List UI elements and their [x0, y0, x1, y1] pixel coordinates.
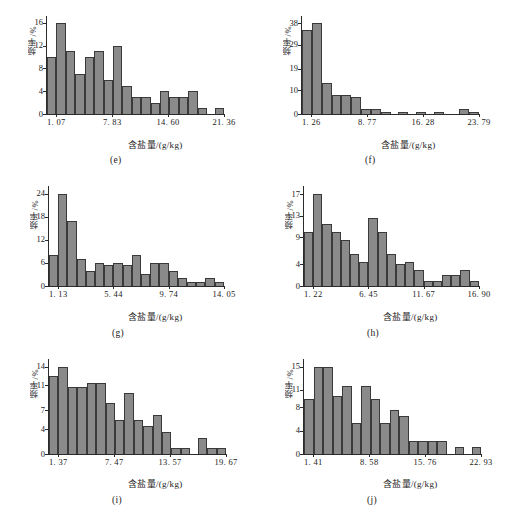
histogram-bar	[66, 51, 75, 114]
histogram-panel-g: 频率/%061218241. 135. 449. 7414. 05含盐量/(g/…	[0, 170, 253, 345]
histogram-bar	[350, 254, 359, 286]
histogram-bar	[341, 240, 350, 286]
x-tick-label: 8. 77	[358, 118, 377, 127]
histogram-bar	[150, 263, 159, 286]
y-tick-label: 18	[37, 213, 49, 222]
x-tick-label: 23. 79	[467, 118, 490, 127]
histogram-bar	[215, 282, 224, 286]
histogram-bar	[469, 112, 479, 114]
histogram-bar	[58, 367, 67, 455]
histogram-bar	[77, 259, 86, 286]
y-tick-label: 8	[39, 64, 46, 73]
histogram-bar	[352, 423, 362, 454]
histogram-bar	[49, 376, 58, 454]
histogram-panel-h: 频率/%04913171. 226. 4511. 6716. 90含盐量/(g/…	[253, 170, 505, 345]
histogram-bar	[455, 447, 465, 454]
x-axis-line	[46, 114, 224, 115]
histogram-bar	[460, 270, 469, 286]
y-tick-label: 4	[41, 425, 48, 434]
histogram-bar	[302, 30, 312, 114]
y-tick-label: 17	[292, 190, 304, 199]
x-axis-label: 含盐量/(g/kg)	[128, 477, 183, 490]
y-tick-label: 11	[292, 386, 303, 395]
histogram-bar	[390, 410, 400, 454]
histogram-bar	[409, 441, 419, 454]
bar-series	[47, 16, 224, 114]
histogram-bar	[122, 86, 131, 114]
histogram-bar	[171, 448, 180, 454]
y-tick-label: 10	[290, 86, 302, 95]
histogram-bar	[106, 403, 115, 454]
plot-area: 04811151. 418. 5815. 7622. 93	[303, 359, 481, 454]
histogram-bar	[333, 396, 343, 454]
histogram-bar	[381, 112, 391, 114]
x-axis-line	[48, 286, 224, 287]
y-tick-label: 8	[296, 403, 303, 412]
histogram-bar	[94, 51, 103, 114]
plot-area: 04812161. 077. 8314. 6021. 36	[46, 16, 224, 114]
y-tick-label: 38	[290, 19, 302, 28]
x-axis-label: 含盐量/(g/kg)	[383, 310, 438, 323]
x-tick-label: 13. 57	[159, 458, 182, 467]
bar-series	[49, 186, 224, 286]
histogram-bar	[437, 441, 447, 454]
x-axis-label: 含盐量/(g/kg)	[128, 310, 183, 323]
histogram-bar	[181, 448, 190, 454]
histogram-bar	[58, 194, 67, 286]
x-tick-label: 22. 93	[469, 458, 492, 467]
y-tick-label: 29	[290, 40, 302, 49]
histogram-panel-i: 频率/%04711141. 377. 4713. 5719. 67含盐量/(g/…	[0, 345, 253, 511]
histogram-bar	[160, 91, 169, 114]
y-tick-label: 15	[292, 362, 304, 371]
histogram-bar	[143, 426, 152, 454]
x-tick-label: 14. 05	[212, 290, 235, 299]
y-tick-label: 0	[294, 110, 301, 119]
histogram-panel-j: 频率/%04811151. 418. 5815. 7622. 93含盐量/(g/…	[253, 345, 505, 511]
x-axis-line	[303, 286, 479, 287]
x-tick-label: 15. 76	[414, 458, 437, 467]
histogram-bar	[134, 420, 143, 454]
histogram-bar	[207, 448, 216, 454]
panel-caption-e: (e)	[110, 155, 121, 165]
histogram-panel-e: 频率/%04812161. 077. 8314. 6021. 36含盐量/(g/…	[0, 0, 253, 170]
x-tick-label: 1. 26	[302, 118, 321, 127]
histogram-bar	[359, 262, 368, 286]
x-tick-label: 16. 90	[467, 290, 490, 299]
histogram-bar	[95, 263, 104, 286]
y-tick-label: 4	[39, 87, 46, 96]
histogram-bar	[104, 80, 113, 114]
histogram-bar	[351, 97, 361, 114]
panel-caption-j: (j)	[367, 495, 377, 505]
x-tick-label: 14. 60	[157, 118, 180, 127]
plot-area: 061218241. 135. 449. 7414. 05	[48, 186, 224, 286]
histogram-bar	[416, 112, 426, 114]
histogram-bar	[424, 281, 433, 286]
histogram-bar	[75, 74, 84, 114]
histogram-bar	[113, 46, 122, 114]
histogram-bar	[323, 367, 333, 454]
x-axis-label: 含盐量/(g/kg)	[383, 477, 438, 490]
histogram-bar	[215, 108, 224, 114]
histogram-bar	[87, 383, 96, 454]
y-tick-label: 13	[292, 211, 304, 220]
x-axis-line	[48, 454, 226, 455]
x-tick-label: 16. 28	[412, 118, 435, 127]
x-tick-label: 1. 07	[47, 118, 66, 127]
histogram-bar	[442, 275, 451, 286]
histogram-bar	[322, 224, 331, 286]
histogram-bar	[322, 83, 332, 114]
y-tick-label: 0	[41, 282, 48, 291]
histogram-bar	[169, 271, 178, 286]
bar-series	[49, 359, 226, 454]
histogram-bar	[123, 265, 132, 286]
bar-series	[304, 186, 479, 286]
histogram-bar	[124, 393, 133, 454]
histogram-bar	[434, 112, 444, 114]
x-tick-label: 1. 37	[49, 458, 68, 467]
histogram-bar	[198, 438, 207, 454]
x-tick-label: 1. 13	[49, 290, 68, 299]
x-axis-line	[303, 454, 481, 455]
y-tick-label: 16	[35, 19, 47, 28]
histogram-bar	[153, 415, 162, 454]
bar-series	[302, 16, 479, 114]
